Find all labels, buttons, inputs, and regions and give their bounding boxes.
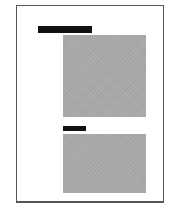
- image-placeholder-1: [63, 35, 146, 117]
- heading-redaction-bar: [38, 26, 92, 33]
- image-placeholder-2: [63, 134, 146, 193]
- caption-redaction-bar: [63, 126, 86, 131]
